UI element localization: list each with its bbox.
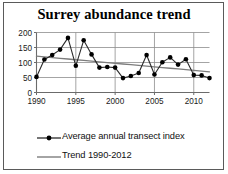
legend-item-index: Average annual transect index	[36, 126, 216, 145]
legend-line-icon	[36, 149, 62, 161]
legend-label-trend: Trend 1990-2012	[62, 150, 131, 160]
legend-item-trend: Trend 1990-2012	[36, 145, 216, 164]
trend-series	[37, 56, 210, 72]
svg-text:1990: 1990	[27, 97, 46, 106]
svg-text:2005: 2005	[145, 97, 164, 106]
svg-text:2010: 2010	[185, 97, 204, 106]
legend-label-index: Average annual transect index	[62, 131, 185, 141]
legend-line-marker-icon	[36, 130, 62, 142]
y-axis-tick-labels: 050100150200	[18, 29, 32, 98]
x-axis-tick-labels: 19901995200020052010	[27, 97, 203, 106]
svg-text:50: 50	[23, 74, 33, 83]
svg-text:100: 100	[18, 59, 32, 68]
svg-text:200: 200	[18, 29, 32, 38]
svg-text:150: 150	[18, 44, 32, 53]
svg-text:2000: 2000	[106, 97, 125, 106]
chart-legend: Average annual transect index Trend 1990…	[36, 126, 216, 164]
gridlines	[37, 33, 210, 93]
svg-text:1995: 1995	[67, 97, 86, 106]
chart-figure: Surrey abundance trend 050100150200 1990…	[0, 0, 228, 174]
